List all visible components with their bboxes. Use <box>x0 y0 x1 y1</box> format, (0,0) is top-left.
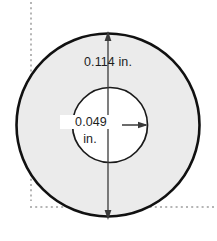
inner-diameter-unit-label: in. <box>60 132 120 146</box>
figure-canvas: 0.114 in. 0.049 in. <box>0 0 217 241</box>
outer-diameter-label: 0.114 in. <box>48 55 168 69</box>
inner-diameter-label: 0.049 <box>60 115 122 129</box>
